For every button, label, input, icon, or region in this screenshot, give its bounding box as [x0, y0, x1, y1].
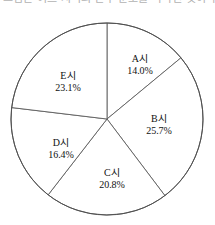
pie-slice-label-A시: A시14.0%: [127, 53, 152, 76]
pie-slice-name: B시: [146, 113, 171, 125]
pie-slice-name: C시: [99, 167, 124, 179]
pie-slice-value: 25.7%: [146, 124, 171, 136]
pie-slice-value: 14.0%: [127, 64, 152, 76]
pie-slice-label-B시: B시25.7%: [146, 113, 171, 136]
pie-slice-value: 23.1%: [55, 81, 80, 93]
pie-slice-name: D시: [48, 137, 73, 149]
pie-slice-name: E시: [55, 70, 80, 82]
pie-chart-figure: 그림은 어느 지역의 인구 분포를 나타낸 것이다. A시14.0%B시25.7…: [0, 0, 215, 225]
pie-slice-value: 20.8%: [99, 178, 124, 190]
pie-slice-name: A시: [127, 53, 152, 65]
pie-slice-label-D시: D시16.4%: [48, 137, 73, 160]
pie-chart-svg: [0, 8, 215, 225]
clipped-header-text: 그림은 어느 지역의 인구 분포를 나타낸 것이다.: [3, 0, 215, 5]
pie-chart-area: A시14.0%B시25.7%C시20.8%D시16.4%E시23.1%: [0, 8, 215, 225]
pie-slice-label-E시: E시23.1%: [55, 70, 80, 93]
pie-slice-label-C시: C시20.8%: [99, 167, 124, 190]
pie-slice-value: 16.4%: [48, 148, 73, 160]
